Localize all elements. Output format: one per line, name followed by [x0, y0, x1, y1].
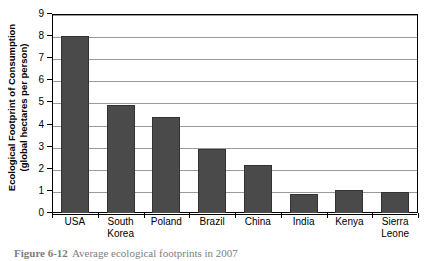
x-axis-label-line1: China — [245, 216, 271, 227]
y-tick-label-0: 0 — [38, 206, 44, 219]
y-tick-label-1: 1 — [38, 184, 44, 197]
x-axis-label-line2: Korea — [98, 228, 144, 240]
gridline-6 — [53, 81, 417, 82]
gridline-3 — [53, 148, 417, 149]
figure-caption-number: Figure 6-12 — [14, 247, 68, 259]
gridline-2 — [53, 170, 417, 171]
x-axis-label-line2: Leone — [372, 228, 418, 240]
x-axis-label-line1: USA — [65, 216, 86, 227]
y-tick-label-6: 6 — [38, 73, 44, 86]
x-axis-label-line1: South — [108, 216, 134, 227]
plot-area — [52, 14, 418, 213]
x-axis-label-line1: Poland — [151, 216, 182, 227]
x-axis-label-india: India — [281, 216, 327, 240]
figure-caption: Figure 6-12Average ecological footprints… — [14, 247, 424, 259]
x-axis-label-usa: USA — [52, 216, 98, 240]
x-axis-label-south-korea: SouthKorea — [98, 216, 144, 240]
gridline-9 — [53, 15, 417, 16]
x-axis-labels: USASouthKoreaPolandBrazilChinaIndiaKenya… — [52, 216, 418, 240]
y-tick-label-9: 9 — [38, 7, 44, 20]
figure-caption-text: Average ecological footprints in 2007 — [72, 247, 238, 259]
y-tick-label-7: 7 — [38, 51, 44, 64]
y-tick-label-8: 8 — [38, 29, 44, 42]
y-tick-label-5: 5 — [38, 95, 44, 108]
x-axis-label-line1: India — [293, 216, 315, 227]
x-tick-8 — [418, 213, 419, 218]
gridlines — [53, 15, 417, 212]
y-axis-ticks: 9876543210 — [0, 14, 52, 213]
y-tick-label-4: 4 — [38, 118, 44, 131]
gridline-8 — [53, 37, 417, 38]
x-axis-label-china: China — [235, 216, 281, 240]
x-axis-label-brazil: Brazil — [189, 216, 235, 240]
gridline-1 — [53, 192, 417, 193]
y-tick-label-2: 2 — [38, 162, 44, 175]
gridline-7 — [53, 59, 417, 60]
x-axis-label-line1: Brazil — [200, 216, 225, 227]
x-axis-label-poland: Poland — [144, 216, 190, 240]
gridline-5 — [53, 103, 417, 104]
gridline-4 — [53, 126, 417, 127]
figure-container: Ecological Footprint of Consumption (glo… — [0, 0, 430, 261]
x-axis-label-line1: Sierra — [382, 216, 409, 227]
y-tick-label-3: 3 — [38, 140, 44, 153]
x-axis-label-sierra-leone: SierraLeone — [372, 216, 418, 240]
x-axis-label-kenya: Kenya — [327, 216, 373, 240]
x-axis-label-line1: Kenya — [335, 216, 363, 227]
